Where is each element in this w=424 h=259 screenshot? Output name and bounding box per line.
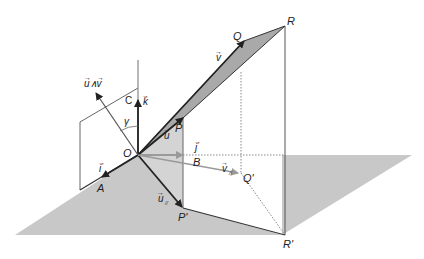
- label-B: B: [193, 156, 200, 168]
- label-vector-k: k →: [142, 92, 149, 107]
- label-cross-product: u∧v → →: [84, 74, 104, 89]
- svg-text:→: →: [194, 138, 201, 145]
- svg-text:→: →: [84, 74, 91, 81]
- svg-text:→: →: [98, 159, 105, 166]
- svg-text:→: →: [157, 189, 164, 196]
- gamma-angle-arc: [120, 126, 138, 131]
- label-O: O: [123, 147, 132, 159]
- vector-diagram: O A B C P Q R P' Q' R' i → j → k → u → v…: [0, 0, 424, 259]
- svg-text:→: →: [215, 48, 222, 55]
- label-P: P: [175, 122, 183, 134]
- label-vector-u: u →: [163, 126, 170, 141]
- label-R: R: [287, 15, 295, 27]
- label-A: A: [96, 182, 104, 194]
- label-gamma: γ: [124, 116, 130, 127]
- label-Q: Q: [233, 30, 242, 42]
- svg-text:→: →: [163, 126, 170, 133]
- vector-v: [138, 41, 244, 155]
- svg-text:→: →: [97, 74, 104, 81]
- label-vector-i: i →: [98, 159, 105, 174]
- label-vector-j: j →: [193, 138, 201, 153]
- svg-text://: //: [164, 200, 168, 206]
- svg-text://: //: [228, 170, 232, 176]
- parallelogram-OPRQ: [138, 26, 285, 155]
- svg-text:→: →: [142, 92, 149, 99]
- label-C: C: [125, 95, 132, 106]
- label-Pprime: P': [178, 211, 188, 223]
- label-Rprime: R': [283, 238, 294, 250]
- label-Qprime: Q': [243, 172, 255, 184]
- svg-text:→: →: [221, 159, 228, 166]
- label-vector-v: v →: [215, 48, 222, 63]
